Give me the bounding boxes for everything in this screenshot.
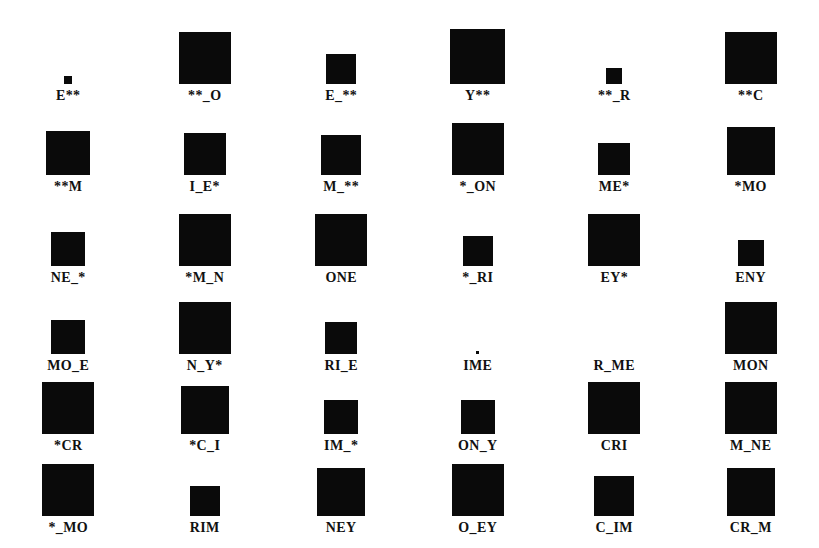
grid-cell[interactable]: Y** <box>410 22 547 103</box>
value-square <box>325 322 357 354</box>
grid-cell[interactable]: N_Y* <box>137 292 274 373</box>
square-swatch-area <box>0 454 137 516</box>
square-swatch-area <box>410 372 547 434</box>
grid-cell[interactable]: M_** <box>273 113 410 194</box>
value-square <box>181 386 229 434</box>
value-square <box>463 236 493 266</box>
cell-label: N_Y* <box>187 358 223 373</box>
cell-label: NE_* <box>51 270 86 285</box>
square-swatch-area <box>683 204 819 266</box>
grid-row: *_MORIMNEYO_EYC_IMCR_M <box>0 454 819 535</box>
value-square <box>42 382 94 434</box>
square-swatch-area <box>410 22 547 84</box>
grid-cell[interactable]: **_R <box>546 22 683 103</box>
square-swatch-area <box>0 22 137 84</box>
square-swatch-area <box>137 204 274 266</box>
square-swatch-area <box>137 292 274 354</box>
square-swatch-area <box>137 372 274 434</box>
value-square <box>606 68 622 84</box>
cell-label: I_E* <box>190 179 220 194</box>
square-swatch-area <box>0 292 137 354</box>
value-square <box>727 468 775 516</box>
grid-cell[interactable]: CRI <box>546 372 683 453</box>
grid-cell[interactable]: **M <box>0 113 137 194</box>
grid-cell[interactable]: I_E* <box>137 113 274 194</box>
grid-cell[interactable]: E_** <box>273 22 410 103</box>
cell-label: ONE <box>325 270 357 285</box>
square-swatch-area <box>273 22 410 84</box>
grid-cell[interactable]: *M_N <box>137 204 274 285</box>
grid-cell[interactable]: O_EY <box>410 454 547 535</box>
grid-cell[interactable]: RI_E <box>273 292 410 373</box>
square-swatch-area <box>683 372 819 434</box>
grid-cell[interactable]: *CR <box>0 372 137 453</box>
cell-label: RI_E <box>325 358 359 373</box>
value-square <box>450 29 505 84</box>
cell-label: M_** <box>323 179 359 194</box>
grid-cell[interactable]: MON <box>683 292 819 373</box>
grid-cell[interactable]: C_IM <box>546 454 683 535</box>
value-square <box>51 232 85 266</box>
cell-label: Y** <box>465 88 490 103</box>
cell-label: CR_M <box>730 520 772 535</box>
grid-cell[interactable]: CR_M <box>683 454 819 535</box>
square-swatch-area <box>546 204 683 266</box>
value-square <box>594 476 634 516</box>
grid-cell[interactable]: *MO <box>683 113 819 194</box>
grid-cell[interactable]: M_NE <box>683 372 819 453</box>
grid-cell[interactable]: *_RI <box>410 204 547 285</box>
square-swatch-area <box>0 204 137 266</box>
cell-label: IME <box>463 358 492 373</box>
grid-cell[interactable]: NEY <box>273 454 410 535</box>
grid-cell[interactable]: IM_* <box>273 372 410 453</box>
grid-cell[interactable]: ENY <box>683 204 819 285</box>
square-swatch-area <box>273 372 410 434</box>
value-square <box>738 240 764 266</box>
value-square <box>725 302 777 354</box>
cell-label: **M <box>54 179 82 194</box>
square-swatch-area <box>410 113 547 175</box>
grid-cell[interactable]: RIM <box>137 454 274 535</box>
value-square <box>476 351 479 354</box>
grid-cell[interactable]: ONE <box>273 204 410 285</box>
cell-label: M_NE <box>730 438 771 453</box>
grid-row: **MI_E*M_***_ONME**MO <box>0 113 819 194</box>
cell-label: *_ON <box>459 179 496 194</box>
square-swatch-area <box>683 292 819 354</box>
grid-cell[interactable]: E** <box>0 22 137 103</box>
grid-cell[interactable]: ON_Y <box>410 372 547 453</box>
grid-cell[interactable]: R_ME <box>546 292 683 373</box>
cell-label: *M_N <box>185 270 224 285</box>
cell-label: E_** <box>325 88 357 103</box>
grid-cell[interactable]: *_ON <box>410 113 547 194</box>
cell-label: R_ME <box>594 358 635 373</box>
square-swatch-area <box>683 22 819 84</box>
grid-cell[interactable]: IME <box>410 292 547 373</box>
cell-label: NEY <box>326 520 357 535</box>
value-square <box>725 32 777 84</box>
square-swatch-area <box>137 22 274 84</box>
value-square <box>46 131 90 175</box>
grid-cell[interactable]: *_MO <box>0 454 137 535</box>
grid-cell[interactable]: *C_I <box>137 372 274 453</box>
grid-cell[interactable]: NE_* <box>0 204 137 285</box>
square-swatch-area <box>683 113 819 175</box>
cell-label: *C_I <box>189 438 220 453</box>
value-square <box>184 133 226 175</box>
value-square <box>179 32 231 84</box>
cell-label: CRI <box>601 438 628 453</box>
value-square <box>725 382 777 434</box>
value-square <box>315 214 367 266</box>
square-swatch-area <box>410 292 547 354</box>
cell-label: **C <box>738 88 763 103</box>
grid-cell[interactable]: **_O <box>137 22 274 103</box>
value-square <box>190 486 220 516</box>
cell-label: ME* <box>599 179 630 194</box>
grid-cell[interactable]: **C <box>683 22 819 103</box>
grid-cell[interactable]: ME* <box>546 113 683 194</box>
grid-cell[interactable]: EY* <box>546 204 683 285</box>
cell-label: ENY <box>735 270 766 285</box>
grid-cell[interactable]: MO_E <box>0 292 137 373</box>
square-swatch-area <box>546 113 683 175</box>
cell-label: MO_E <box>47 358 89 373</box>
